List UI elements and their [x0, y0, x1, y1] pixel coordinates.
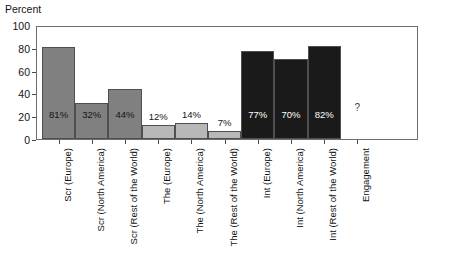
x-axis-category-label: Scr (North America): [96, 148, 106, 231]
bar: 77%: [241, 51, 274, 139]
x-axis-category-label: Int (Rest of the World): [328, 148, 338, 241]
bar: 70%: [274, 59, 307, 139]
bar-value-label: 32%: [76, 109, 107, 120]
x-axis-tick-mark: [357, 140, 358, 144]
y-axis-tick-label: 40: [0, 89, 30, 99]
x-axis-category-label: Scr (Rest of the World): [129, 148, 139, 244]
bar-value-label: 7%: [208, 117, 241, 128]
x-axis-category-label: The (Rest of the World): [229, 148, 239, 247]
x-axis-tick-mark: [258, 140, 259, 144]
y-axis-tick-label: 60: [0, 67, 30, 77]
bar: [142, 125, 175, 139]
y-axis-title: Percent: [5, 3, 41, 16]
y-axis-tick-label: 80: [0, 44, 30, 54]
x-axis-tick-mark: [291, 140, 292, 144]
x-axis-tick-mark: [59, 140, 60, 144]
y-axis-tick-label: 0: [0, 135, 30, 145]
bar-value-label: 14%: [175, 109, 208, 120]
x-axis-category-label: The (Europe): [162, 148, 172, 204]
bar: 44%: [108, 89, 141, 139]
x-axis-category-label: Scr (Europe): [63, 148, 73, 202]
bar-value-label: 81%: [43, 109, 74, 120]
x-axis-category-label: Engagement: [361, 148, 371, 202]
x-axis-tick-mark: [225, 140, 226, 144]
bar-value-label: 44%: [109, 109, 140, 120]
x-axis-tick-mark: [324, 140, 325, 144]
unknown-value-marker: ?: [341, 102, 374, 113]
bar-value-label: 77%: [242, 109, 273, 120]
bar-value-label: 70%: [275, 109, 306, 120]
bar-chart: Percent 100806040200 81%32%44%12%14%7%77…: [0, 0, 449, 265]
y-axis-tick-mark: [32, 140, 36, 141]
y-axis-tick-label: 20: [0, 112, 30, 122]
x-axis-category-label: The (North America): [195, 148, 205, 234]
bar-value-label: 12%: [142, 111, 175, 122]
bar: [208, 131, 241, 139]
x-axis-category-label: Int (Europe): [262, 148, 272, 198]
y-axis-tick-label: 100: [0, 21, 30, 31]
bar: 81%: [42, 47, 75, 139]
x-axis-category-label: Int (North America): [295, 148, 305, 228]
x-axis-tick-mark: [125, 140, 126, 144]
bar: [175, 123, 208, 139]
bar: 82%: [308, 46, 341, 139]
bar: 32%: [75, 103, 108, 139]
x-axis-tick-mark: [158, 140, 159, 144]
bar-value-label: 82%: [309, 109, 340, 120]
bars-layer: 81%32%44%12%14%7%77%70%82%?: [36, 26, 418, 140]
x-axis-tick-mark: [191, 140, 192, 144]
x-axis-tick-mark: [92, 140, 93, 144]
